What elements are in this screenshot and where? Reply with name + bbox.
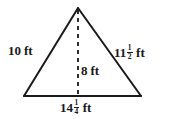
geometry-figure: 10 ft 11 1 2 ft 8 ft 14 1 4 ft	[0, 0, 169, 119]
right-side-denominator: 2	[127, 53, 133, 61]
base-fraction: 1 4	[74, 99, 80, 116]
base-label: 14 1 4 ft	[60, 99, 91, 116]
left-side-label: 10 ft	[8, 44, 33, 57]
base-denominator: 4	[74, 108, 80, 116]
base-whole: 14	[60, 101, 73, 114]
left-side-whole: 10	[8, 44, 21, 57]
right-side-whole: 11	[114, 46, 126, 59]
right-side-label: 11 1 2 ft	[114, 44, 145, 61]
left-side-unit: ft	[24, 44, 33, 57]
height-unit: ft	[91, 64, 100, 77]
right-side-fraction: 1 2	[127, 44, 133, 61]
right-side-unit: ft	[136, 46, 145, 59]
base-unit: ft	[83, 101, 92, 114]
height-label: 8 ft	[81, 64, 99, 77]
height-whole: 8	[81, 64, 88, 77]
